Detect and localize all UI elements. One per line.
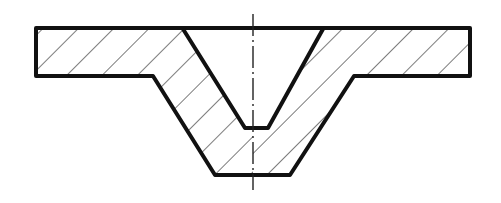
section-drawing <box>0 0 501 203</box>
